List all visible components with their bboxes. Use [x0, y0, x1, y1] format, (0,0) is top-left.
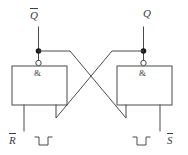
label-r-not: R	[9, 133, 16, 146]
gate-right-inverting-bubble-icon	[141, 60, 146, 65]
gate-right-and-symbol: &	[139, 69, 146, 78]
gate-left-inverting-bubble-icon	[36, 60, 41, 65]
waveform-rbar-icon	[35, 137, 52, 145]
label-s-not: S	[167, 133, 173, 146]
gate-left-and-symbol: &	[34, 69, 41, 78]
label-q: Q	[143, 8, 151, 19]
waveform-sbar-icon	[133, 137, 150, 145]
label-r-not-text: R	[9, 133, 16, 146]
label-q-not: Q	[30, 8, 38, 21]
rs-nand-latch-figure: Q Q R S & &	[0, 0, 188, 155]
label-s-not-text: S	[167, 133, 173, 146]
label-q-not-text: Q	[30, 8, 38, 21]
label-q-text: Q	[143, 7, 151, 19]
circuit-schematic-svg	[0, 0, 188, 155]
